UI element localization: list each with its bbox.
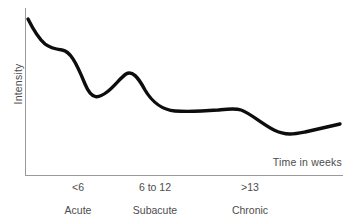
phase-label-acute: Acute <box>65 204 92 216</box>
phase-label-subacute: Subacute <box>133 204 177 216</box>
x-axis-label: Time in weeks <box>273 156 342 168</box>
tick-label-chronic: >13 <box>241 181 259 193</box>
phase-label-chronic: Chronic <box>232 204 268 216</box>
y-axis-label: Intensity <box>12 54 24 114</box>
intensity-curve <box>28 19 340 134</box>
tick-label-subacute: 6 to 12 <box>139 181 171 193</box>
curve-container <box>0 0 344 223</box>
pain-intensity-chart: Intensity Time in weeks <6 6 to 12 >13 A… <box>0 0 344 223</box>
tick-label-acute: <6 <box>72 181 84 193</box>
